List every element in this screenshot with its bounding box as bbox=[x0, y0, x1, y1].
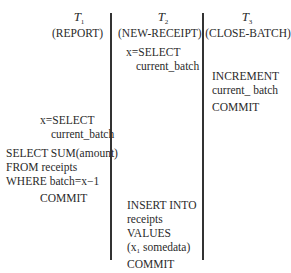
t3-commit: COMMIT bbox=[212, 100, 259, 114]
t1-sum-from: FROM receipts bbox=[6, 160, 77, 174]
t1-select-x=: x=SELECT bbox=[40, 113, 94, 127]
t2-commit: COMMIT bbox=[127, 257, 174, 271]
t1-sum-where: WHERE batch=x−1 bbox=[6, 174, 99, 188]
t1-commit: COMMIT bbox=[40, 191, 87, 205]
t2-insert-into: INSERT INTO bbox=[127, 198, 196, 212]
transaction-t2-label: (NEW-RECEIPT) bbox=[118, 26, 200, 40]
t2-select-current-batch: current_batch bbox=[136, 59, 199, 73]
transaction-t1-label: (REPORT) bbox=[45, 26, 110, 40]
t3-increment-target: current_ batch bbox=[212, 83, 278, 97]
t1-sum-select: SELECT SUM(amount) bbox=[6, 146, 118, 160]
t2-insert-values: VALUES bbox=[127, 226, 171, 240]
t3-increment-keyword: INCREMENT bbox=[212, 69, 279, 83]
t2-insert-tuple: (x1 somedata) bbox=[127, 240, 190, 258]
t2-insert-table: receipts bbox=[127, 212, 163, 226]
t1-select-current-batch: current_batch bbox=[51, 127, 114, 141]
transaction-t3-label: (CLOSE-BATCH) bbox=[205, 26, 291, 40]
column-divider-2-3 bbox=[202, 13, 204, 260]
t2-select-x=: x=SELECT bbox=[126, 45, 180, 59]
